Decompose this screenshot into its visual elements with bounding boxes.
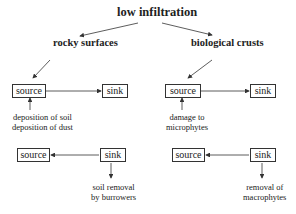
sink-box: sink: [102, 84, 128, 98]
heading-rocky-surfaces: rocky surfaces: [53, 38, 118, 49]
note-soil-removal: soil removal by burrowers: [91, 182, 136, 202]
note-removal-macrophytes: removal of macrophytes: [243, 182, 286, 202]
source-box: source: [17, 148, 50, 162]
source-box: source: [12, 84, 46, 98]
diagram-title: low infiltration: [117, 6, 197, 19]
heading-biological-crusts: biological crusts: [191, 38, 264, 49]
note-deposition: deposition of soil deposition of dust: [12, 112, 73, 132]
sink-box: sink: [100, 148, 126, 162]
source-box: source: [172, 148, 205, 162]
note-damage-microphytes: damage to microphytes: [166, 112, 208, 132]
sink-box: sink: [250, 84, 276, 98]
sink-box: sink: [250, 148, 276, 162]
source-box: source: [165, 84, 201, 98]
